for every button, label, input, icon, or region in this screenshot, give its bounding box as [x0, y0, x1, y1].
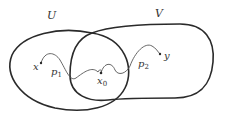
point-x0-subscript: 0: [103, 80, 107, 88]
set-v-label: V: [155, 7, 164, 20]
path-p1-label: p1: [51, 66, 62, 79]
path-p2-subscript: 2: [144, 63, 148, 71]
point-y: [159, 53, 161, 55]
set-u-label: U: [47, 9, 57, 22]
point-x0-label: x0: [97, 75, 107, 88]
point-y-label: y: [163, 50, 170, 61]
point-x: [40, 62, 42, 64]
path-p2-label: p2: [138, 58, 149, 71]
diagram-canvas: U V x y x0 p1 p2: [0, 0, 230, 126]
path-p2: [101, 45, 160, 73]
point-x-label: x: [33, 61, 39, 72]
point-x0: [100, 72, 103, 75]
path-p1-subscript: 1: [57, 71, 61, 79]
